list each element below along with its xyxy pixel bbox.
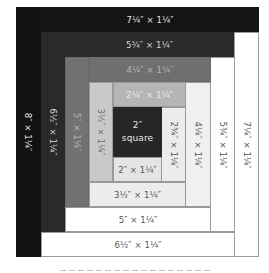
strip-label: 6½″ × 1¼″ — [114, 240, 161, 250]
strip-label: 4¼″ × 1¼″ — [126, 65, 173, 75]
strip-5-bottom: 5″ × 1¼″ — [65, 207, 211, 232]
strip-label: 2¾″ × 1¼″ — [169, 121, 179, 168]
caption-cutoff — [60, 268, 210, 273]
caption-fragment — [60, 270, 210, 271]
strip-6-1-2-bottom: 6½″ × 1¼″ — [41, 232, 235, 257]
strip-label: 3½″ × 1¼″ — [96, 108, 106, 155]
center-word: square — [122, 133, 153, 143]
strip-2-3-4-top: 2¾″ × 1¼″ — [113, 82, 186, 107]
center-label: 2″ square — [122, 119, 153, 145]
strip-label: 3½″ × 1¼″ — [114, 190, 161, 200]
strip-8-left: 8″ × 1¼″ — [16, 7, 41, 257]
strip-label: 5¾″ × 1¼″ — [218, 121, 228, 168]
log-cabin-block: 8″ × 1¼″ 7¼″ × 1¼″ 7¼″ × 1¼″ 6½″ × 1¼″ 6… — [16, 7, 259, 257]
strip-5-3-4-top: 5¾″ × 1¼″ — [65, 32, 234, 57]
strip-label: 2″ × 1¼″ — [118, 165, 157, 175]
strip-label: 5″ × 1¼″ — [72, 113, 82, 152]
strip-7-1-4-top: 7¼″ × 1¼″ — [41, 7, 259, 32]
strip-2-3-4-right: 2¾″ × 1¼″ — [161, 107, 186, 182]
strip-label: 6½″ × 1¼″ — [48, 108, 58, 155]
strip-label: 8″ × 1¼″ — [24, 113, 34, 152]
strip-4-1-4-right: 4¼″ × 1¼″ — [185, 82, 211, 207]
strip-label: 5″ × 1¼″ — [119, 215, 158, 225]
strip-6-1-2-left: 6½″ × 1¼″ — [41, 32, 65, 232]
strip-label: 5¾″ × 1¼″ — [126, 40, 173, 50]
strip-5-3-4-right: 5¾″ × 1¼″ — [210, 57, 235, 232]
strip-3-1-2-left: 3½″ × 1¼″ — [89, 82, 113, 182]
strip-3-1-2-bottom: 3½″ × 1¼″ — [89, 182, 186, 207]
strip-2-bottom: 2″ × 1¼″ — [113, 157, 162, 182]
strip-label: 7¼″ × 1¼″ — [126, 15, 173, 25]
strip-7-1-4-right: 7¼″ × 1¼″ — [234, 32, 259, 257]
center-size: 2″ — [133, 120, 142, 130]
strip-4-1-4-top: 4¼″ × 1¼″ — [89, 57, 211, 82]
strip-label: 7¼″ × 1¼″ — [242, 121, 252, 168]
strip-label: 4¼″ × 1¼″ — [193, 121, 203, 168]
strip-5-left: 5″ × 1¼″ — [65, 57, 89, 207]
strip-label: 2¾″ × 1¼″ — [126, 90, 173, 100]
center-square: 2″ square — [113, 107, 162, 157]
